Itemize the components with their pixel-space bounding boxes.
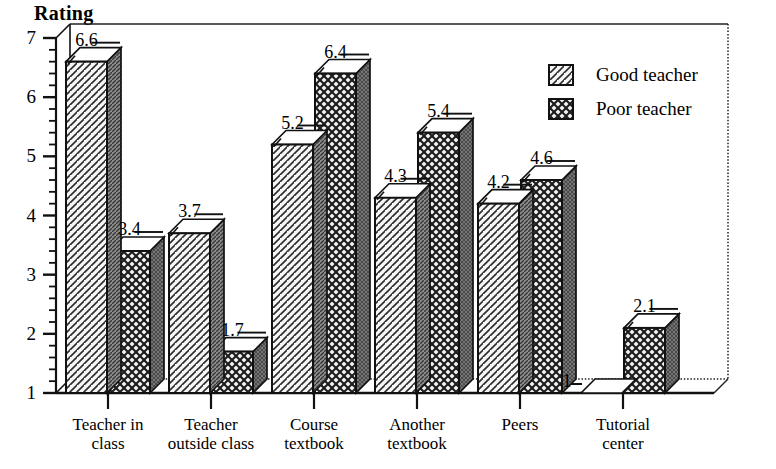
bar-good-2 [272,131,327,394]
x-axis-label: Tutorial center [596,415,650,453]
bar-value-label: 5.4 [427,101,450,122]
bar-value-label: 6.4 [324,42,347,63]
bar-value-label: 4.3 [384,166,407,187]
x-axis-label: Another textbook [387,415,447,453]
bar-good-0 [66,48,121,393]
bar-chart: Rating [0,0,776,469]
legend: Good teacher Poor teacher [548,58,698,126]
bar-value-label: 6.6 [75,30,98,51]
y-tick-label: 4 [10,205,36,227]
bar-good-1 [169,219,224,393]
legend-label-poor-teacher: Poor teacher [596,98,691,120]
y-tick-label: 5 [10,145,36,167]
legend-label-good-teacher: Good teacher [596,64,698,86]
bar-value-label: 3.7 [178,201,201,222]
bar-good-3 [375,184,430,393]
bar-value-label: 4.6 [530,148,553,169]
y-tick-label: 2 [10,323,36,345]
bar-value-label: 5.2 [281,113,304,134]
legend-swatch-good-teacher [548,64,574,86]
x-axis-label: Teacher outside class [168,415,254,453]
bar-value-label: 1.7 [221,320,244,341]
bar-value-label: 1 [563,371,572,392]
legend-item-poor-teacher: Poor teacher [548,92,698,126]
y-tick-label: 1 [10,382,36,404]
y-tick-label: 3 [10,264,36,286]
bar-value-label: 4.2 [487,172,510,193]
x-axis-label: Teacher in class [72,415,143,453]
y-tick-label: 7 [10,27,36,49]
x-axis-label: Course textbook [284,415,344,453]
x-axis-label: Peers [502,415,539,434]
bar-value-label: 3.4 [118,219,141,240]
bar-value-label: 2.1 [633,296,656,317]
legend-item-good-teacher: Good teacher [548,58,698,92]
y-tick-label: 6 [10,86,36,108]
legend-swatch-poor-teacher [548,98,574,120]
bar-good-4 [478,190,533,393]
